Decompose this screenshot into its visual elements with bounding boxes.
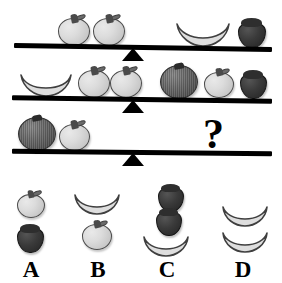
apple-icon: [17, 190, 45, 218]
strawberry-icon: [17, 224, 44, 253]
strawberry-cap-icon: [243, 70, 263, 79]
option-c[interactable]: C: [138, 182, 210, 282]
banana-shape: [72, 192, 122, 215]
strawberry-icon: [156, 208, 182, 236]
question-mark-icon: ?: [203, 113, 224, 155]
option-b[interactable]: B: [62, 182, 138, 282]
banana-icon: [18, 72, 74, 97]
strawberry-icon: [238, 18, 266, 48]
banana-shape: [220, 230, 270, 253]
option-d-label: D: [212, 258, 274, 281]
apple-icon: [58, 14, 90, 46]
fruit-balance-puzzle: ? A B: [0, 0, 282, 283]
banana-icon: [220, 230, 270, 253]
strawberry-cap-icon: [241, 18, 262, 27]
option-c-label: C: [136, 258, 198, 281]
balance-fulcrum: [122, 100, 144, 113]
banana-shape: [141, 234, 191, 257]
apple-icon: [78, 66, 110, 98]
banana-icon: [72, 192, 122, 215]
apple-icon: [204, 68, 234, 98]
balance-fulcrum: [122, 153, 144, 166]
strawberry-cap-icon: [161, 184, 180, 192]
strawberry-cap-icon: [20, 224, 40, 233]
grapefruit-icon: [160, 63, 198, 99]
option-a-label: A: [0, 258, 62, 281]
grapefruit-icon: [18, 115, 56, 151]
apple-icon: [93, 14, 125, 46]
apple-icon: [82, 220, 112, 250]
apple-icon: [59, 120, 90, 151]
strawberry-cap-icon: [159, 208, 178, 216]
strawberry-icon: [240, 70, 267, 99]
grapefruit-body: [160, 65, 198, 99]
banana-shape: [18, 72, 74, 97]
option-d[interactable]: D: [210, 182, 282, 282]
grapefruit-body: [18, 117, 56, 151]
banana-icon: [141, 234, 191, 257]
banana-icon: [220, 204, 270, 227]
option-a[interactable]: A: [0, 182, 70, 282]
banana-icon: [174, 21, 232, 47]
apple-icon: [110, 66, 142, 98]
balance-fulcrum: [122, 48, 144, 61]
banana-shape: [174, 21, 232, 47]
option-b-label: B: [67, 258, 129, 281]
banana-shape: [220, 204, 270, 227]
